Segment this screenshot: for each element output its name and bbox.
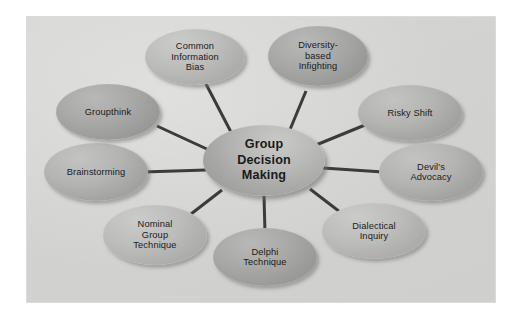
node-nominal-group-technique[interactable]: Nominal Group Technique [103, 205, 207, 265]
connector-devils-advocacy [323, 168, 383, 172]
node-label-groupthink: Groupthink [85, 107, 131, 117]
connector-nominal-group-technique [191, 190, 222, 214]
node-label-devils-advocacy: Devil's Advocacy [410, 162, 451, 183]
connector-groupthink [157, 126, 209, 150]
node-risky-shift[interactable]: Risky Shift [358, 85, 462, 141]
node-label-diversity-based-infighting: Diversity- based Infighting [298, 40, 338, 71]
node-label-brainstorming: Brainstorming [67, 167, 126, 177]
node-common-information-bias[interactable]: Common Information Bias [145, 29, 245, 85]
connector-brainstorming [143, 170, 206, 172]
node-group-decision-making[interactable]: Group Decision Making [203, 125, 325, 196]
node-label-nominal-group-technique: Nominal Group Technique [133, 219, 176, 250]
node-label-risky-shift: Risky Shift [387, 108, 432, 118]
node-dialectical-inquiry[interactable]: Dialectical Inquiry [322, 203, 426, 259]
node-devils-advocacy[interactable]: Devil's Advocacy [379, 143, 483, 201]
node-label-common-information-bias: Common Information Bias [171, 41, 219, 72]
node-groupthink[interactable]: Groupthink [56, 84, 160, 140]
diagram-canvas: Common Information Bias Diversity- based… [0, 0, 517, 323]
node-label-dialectical-inquiry: Dialectical Inquiry [352, 221, 395, 242]
connector-common-information-bias [206, 84, 232, 134]
node-brainstorming[interactable]: Brainstorming [44, 143, 148, 201]
connector-risky-shift [316, 125, 365, 145]
node-label-group-decision-making: Group Decision Making [237, 137, 291, 183]
connector-diversity-based-infighting [289, 91, 306, 132]
node-delphi-technique[interactable]: Delphi Technique [213, 228, 317, 286]
connector-dialectical-inquiry [310, 189, 340, 212]
node-diversity-based-infighting[interactable]: Diversity- based Infighting [268, 26, 368, 86]
node-label-delphi-technique: Delphi Technique [243, 247, 286, 268]
